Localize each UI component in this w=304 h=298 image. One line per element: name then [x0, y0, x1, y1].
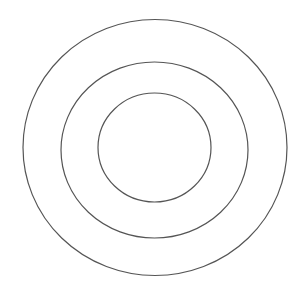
inner-circle [98, 93, 211, 202]
middle-circle [61, 62, 248, 238]
concentric-circles-diagram [0, 0, 304, 298]
